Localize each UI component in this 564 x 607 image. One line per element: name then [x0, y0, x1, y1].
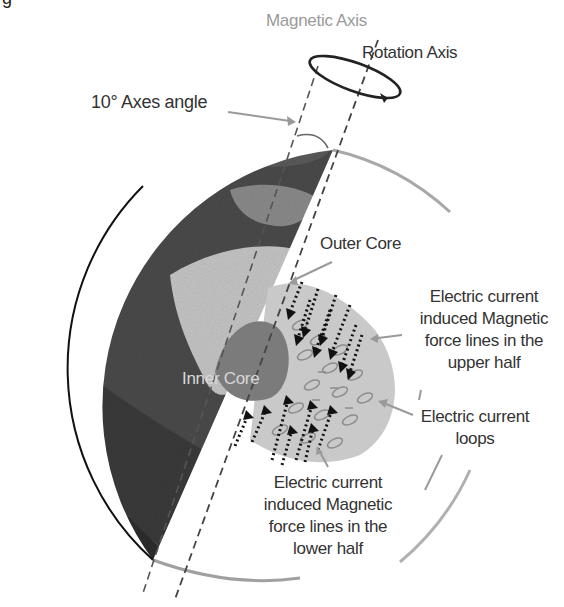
upper-force-lines-line-3: force lines in the: [406, 330, 562, 352]
magnetic-axis-label: Magnetic Axis: [266, 10, 367, 32]
axes-angle-arc: [297, 134, 328, 148]
current-loops-line-1: Electric current: [408, 406, 542, 428]
lower-force-lines-line-4: lower half: [250, 538, 406, 560]
current-loops-line-2: loops: [408, 428, 542, 450]
upper-force-lines-label: Electric current induced Magnetic force …: [406, 286, 562, 374]
current-loops-label: Electric current loops: [408, 406, 542, 450]
lower-force-lines-line-2: induced Magnetic: [250, 494, 406, 516]
inner-core-label: Inner Core: [182, 368, 259, 390]
globe-outline-arc-right: [400, 470, 470, 562]
globe-outline-arc-bottom: [153, 560, 300, 581]
outer-core-label: Outer Core: [320, 233, 401, 255]
upper-force-lines-line-4: upper half: [406, 352, 562, 374]
axes-angle-label: 10° Axes angle: [91, 91, 207, 113]
figure-title-fragment: g: [2, 0, 12, 8]
upper-force-lines-line-2: induced Magnetic: [406, 308, 562, 330]
rotation-axis-label: Rotation Axis: [362, 42, 457, 64]
lower-force-lines-line-3: force lines in the: [250, 516, 406, 538]
globe-outline-arc: [333, 150, 450, 212]
lower-force-lines-line-1: Electric current: [250, 472, 406, 494]
upper-force-lines-line-1: Electric current: [406, 286, 562, 308]
lower-force-lines-label: Electric current induced Magnetic force …: [250, 472, 406, 560]
